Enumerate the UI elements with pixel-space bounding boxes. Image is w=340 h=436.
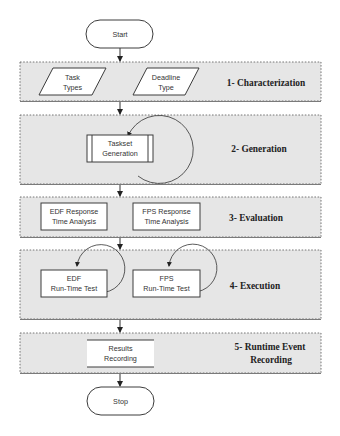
- node-label-line: Time Analysis: [52, 217, 96, 226]
- node-results-recording: Results Recording: [87, 340, 154, 367]
- node-label-line: FPS: [160, 274, 174, 283]
- stop-label: Stop: [113, 397, 128, 406]
- node-label-line: FPS Response: [142, 207, 190, 216]
- node-label-line: Results: [109, 344, 133, 353]
- node-fps-response-time-analysis: FPS Response Time Analysis: [133, 203, 200, 230]
- node-edf-response-time-analysis: EDF Response Time Analysis: [41, 203, 107, 230]
- node-label-line: Taskset: [108, 139, 132, 148]
- start-label: Start: [112, 30, 127, 39]
- stage-label-generation: 2- Generation: [231, 144, 287, 154]
- node-label-line: Deadline: [152, 73, 180, 82]
- stage-label-characterization: 1- Characterization: [227, 78, 306, 88]
- node-label-line: Run-Time Test: [51, 284, 97, 293]
- stage-label-evaluation: 3- Evaluation: [229, 213, 284, 223]
- node-label-line: Run-Time Test: [143, 284, 189, 293]
- node-label-line: Type: [158, 83, 174, 92]
- node-label-line: Types: [63, 83, 83, 92]
- node-label-line: Generation: [102, 149, 138, 158]
- stage-label-runtime-event-recording-line2: Recording: [250, 355, 292, 365]
- stage-label-execution: 4- Execution: [230, 281, 281, 291]
- node-label-line: Time Analysis: [144, 217, 188, 226]
- node-label-line: Recording: [104, 354, 137, 363]
- node-label-line: EDF: [67, 274, 82, 283]
- stage-panel-runtime-event-recording: [20, 333, 321, 374]
- stage-label-runtime-event-recording: 5- Runtime Event: [235, 342, 307, 352]
- flowchart: Start Task Types Deadline Type 1- Charac…: [0, 0, 340, 436]
- node-label-line: Task: [65, 73, 80, 82]
- stop-terminator: Stop: [87, 387, 154, 415]
- node-label-line: EDF Response: [50, 207, 99, 216]
- start-terminator: Start: [86, 20, 153, 48]
